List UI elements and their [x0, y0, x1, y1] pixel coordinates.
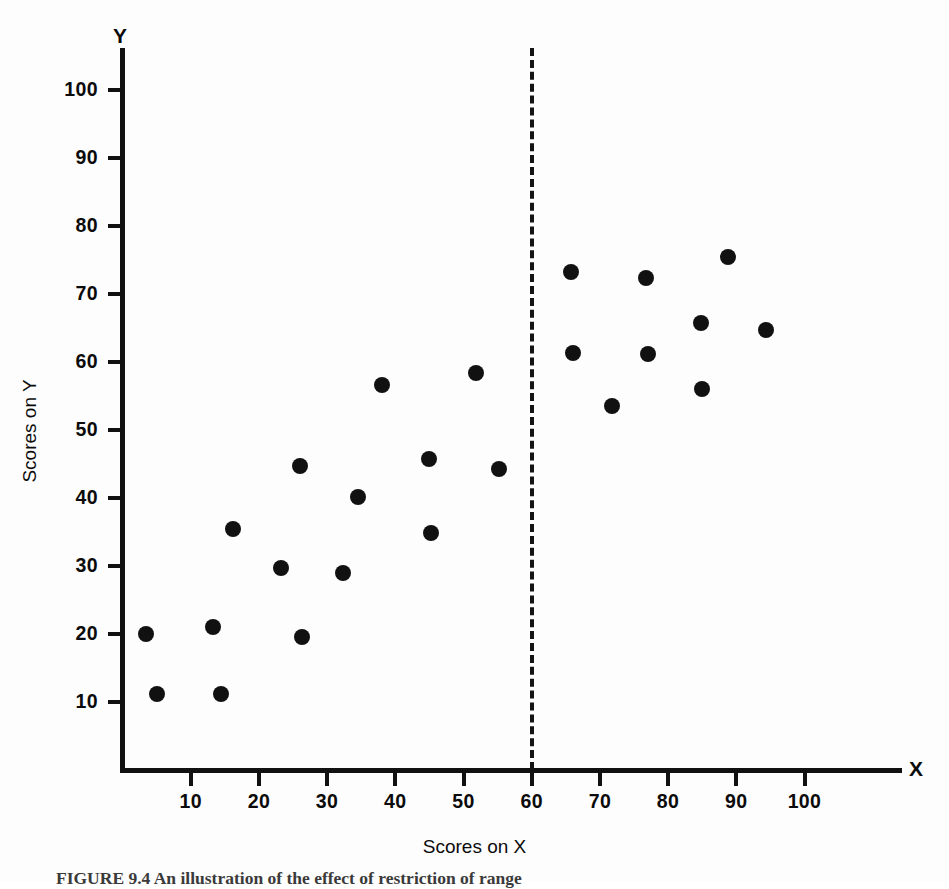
y-axis-tick [108, 360, 121, 364]
scatter-point [423, 525, 439, 541]
scatter-point [694, 381, 710, 397]
x-axis-tick-label: 80 [638, 790, 698, 813]
figure-caption: FIGURE 9.4 An illustration of the effect… [56, 868, 916, 889]
scatter-point [374, 377, 390, 393]
scatter-point [640, 346, 656, 362]
x-axis-line [120, 768, 902, 773]
scatter-point [294, 629, 310, 645]
x-axis-tick-label: 30 [297, 790, 357, 813]
x-axis-tick-label: 40 [365, 790, 425, 813]
x-axis-tick-label: 10 [161, 790, 221, 813]
y-axis-tick-label: 100 [36, 78, 98, 101]
x-axis-tick-label: 60 [502, 790, 562, 813]
scatter-point [491, 461, 507, 477]
scatter-point [292, 458, 308, 474]
x-axis-tick [325, 773, 329, 786]
x-axis-tick-label: 90 [706, 790, 766, 813]
x-axis-tick [462, 773, 466, 786]
scatter-point [213, 686, 229, 702]
y-axis-tick [108, 564, 121, 568]
y-axis-tick [108, 428, 121, 432]
x-axis-tick [734, 773, 738, 786]
scatter-point [693, 315, 709, 331]
scatter-point [350, 489, 366, 505]
x-axis-title: Scores on X [0, 836, 949, 858]
scatter-point [468, 365, 484, 381]
y-axis-tick-label: 50 [36, 418, 98, 441]
x-axis-tick [257, 773, 261, 786]
scatter-point [421, 451, 437, 467]
scatter-point [273, 560, 289, 576]
y-axis-tick [108, 292, 121, 296]
x-axis-tick-label: 100 [775, 790, 835, 813]
y-axis-tick [108, 700, 121, 704]
x-axis-tick [530, 773, 534, 786]
y-axis-tick [108, 156, 121, 160]
restriction-cutoff-line [530, 48, 534, 770]
scatter-point [638, 270, 654, 286]
x-axis-tick [803, 773, 807, 786]
y-axis-tick [108, 496, 121, 500]
scatter-point [720, 249, 736, 265]
x-axis-letter: X [909, 757, 923, 781]
scatter-point [138, 626, 154, 642]
scatter-point [225, 521, 241, 537]
scatter-point [205, 619, 221, 635]
scatter-point [604, 398, 620, 414]
scatter-point [335, 565, 351, 581]
x-axis-tick [666, 773, 670, 786]
x-axis-tick-label: 70 [570, 790, 630, 813]
y-axis-tick-label: 60 [36, 350, 98, 373]
scatter-point [563, 264, 579, 280]
y-axis-tick-label: 30 [36, 554, 98, 577]
y-axis-tick-label: 10 [36, 690, 98, 713]
y-axis-tick [108, 88, 121, 92]
y-axis-tick-label: 70 [36, 282, 98, 305]
y-axis-letter: Y [113, 24, 127, 48]
scatter-point [565, 345, 581, 361]
y-axis-tick-label: 20 [36, 622, 98, 645]
scatter-point [149, 686, 165, 702]
y-axis-tick-label: 80 [36, 214, 98, 237]
y-axis-tick-label: 90 [36, 146, 98, 169]
y-axis-tick [108, 224, 121, 228]
x-axis-tick [598, 773, 602, 786]
x-axis-tick-label: 50 [434, 790, 494, 813]
scatter-point [758, 322, 774, 338]
x-axis-tick-label: 20 [229, 790, 289, 813]
y-axis-tick [108, 632, 121, 636]
y-axis-tick-label: 40 [36, 486, 98, 509]
x-axis-tick [393, 773, 397, 786]
x-axis-tick [189, 773, 193, 786]
